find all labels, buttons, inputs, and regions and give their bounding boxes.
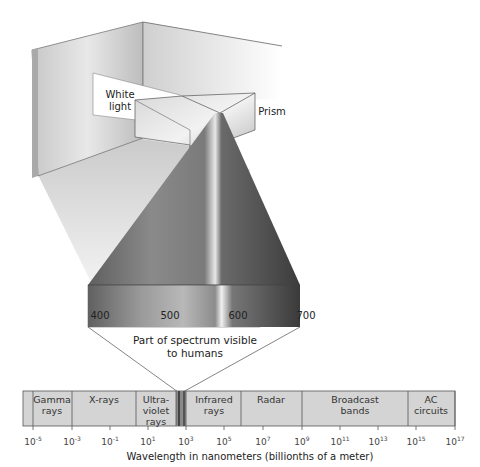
visible-spectrum-caption: Part of spectrum visible to humans: [130, 334, 260, 360]
band-ultraviolet: Ultra-violet rays: [139, 394, 173, 427]
axis-tick-label: 10-1: [101, 435, 118, 447]
axis-tick-label: 109: [294, 435, 309, 447]
axis-tick-label: 10-3: [63, 435, 80, 447]
axis-tick-label: 101: [140, 435, 155, 447]
white-light-label: White light: [100, 89, 140, 113]
axis-tick-label: 10-5: [24, 435, 41, 447]
axis-tick-label: 1013: [368, 435, 387, 447]
em-spectrum-bar: [23, 391, 455, 426]
band-gamma-rays: Gamma rays: [33, 394, 71, 416]
axis-tick-label: 1011: [330, 435, 349, 447]
band-infrared: Infrared rays: [192, 394, 236, 416]
visible-tick-400: 400: [90, 310, 109, 321]
band-ac-circuits: AC circuits: [411, 394, 451, 416]
axis-tick-label: 105: [216, 435, 231, 447]
axis-tick-label: 103: [178, 435, 193, 447]
axis-tick-label: 1015: [406, 435, 425, 447]
prism-label: Prism: [256, 106, 288, 118]
visible-tick-700: 700: [296, 310, 315, 321]
band-radar: Radar: [257, 394, 285, 405]
prism-diagram: [0, 0, 480, 467]
axis-tick-label: 107: [255, 435, 270, 447]
visible-tick-600: 600: [228, 310, 247, 321]
axis-tick-label: 1017: [445, 435, 464, 447]
band-broadcast: Broadcast bands: [325, 394, 385, 416]
axis-title: Wavelength in nanometers (billionths of …: [90, 451, 410, 463]
visible-tick-500: 500: [160, 310, 179, 321]
band-x-rays: X-rays: [89, 394, 119, 405]
